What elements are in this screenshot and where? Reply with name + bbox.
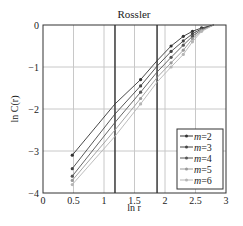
data-point	[71, 167, 74, 170]
data-point	[71, 179, 74, 182]
legend-label: m=5	[194, 164, 212, 175]
legend: m=2m=3m=4m=5m=6	[177, 129, 223, 189]
legend-label: m=6	[194, 175, 212, 186]
data-point	[170, 65, 173, 68]
y-tick-label: −2	[28, 104, 39, 115]
data-point	[71, 183, 74, 186]
data-point	[139, 91, 142, 94]
data-point	[200, 30, 203, 33]
data-point	[139, 97, 142, 100]
legend-swatch-marker	[185, 168, 188, 171]
legend-swatch-marker	[185, 179, 188, 182]
x-axis-label-text: ln r	[127, 202, 141, 213]
x-tick-label: 0.5	[67, 195, 80, 206]
correlation-dimension-chart: Rossler 00.511.522.53 0−1−2−3−4 ln r ln …	[0, 0, 243, 226]
legend-label: m=2	[194, 131, 212, 142]
x-tick-label: 0	[41, 195, 46, 206]
x-tick-label: 2.5	[189, 195, 202, 206]
legend-swatch-marker	[185, 135, 188, 138]
y-tick-label: −3	[28, 146, 39, 157]
legend-label: m=3	[194, 142, 212, 153]
y-axis-label-text: ln C(r)	[9, 96, 21, 123]
data-point	[170, 56, 173, 59]
chart-title: Rossler	[118, 8, 151, 20]
data-point	[182, 49, 185, 52]
data-point	[170, 44, 173, 47]
x-axis-label: ln r	[127, 202, 141, 213]
x-tick-label: 2	[163, 195, 168, 206]
data-point	[182, 35, 185, 38]
y-tick-label: −4	[28, 188, 39, 199]
data-point	[139, 102, 142, 105]
data-point	[139, 84, 142, 87]
legend-swatch-marker	[185, 146, 188, 149]
data-point	[71, 154, 74, 157]
legend-swatch-marker	[185, 157, 188, 160]
y-tick-label: 0	[34, 20, 39, 31]
data-point	[139, 78, 142, 81]
data-point	[170, 50, 173, 53]
legend-label: m=4	[194, 153, 212, 164]
data-point	[182, 39, 185, 42]
y-tick-label: −1	[28, 62, 39, 73]
y-axis-label: ln C(r)	[9, 96, 21, 123]
data-point	[182, 44, 185, 47]
x-tick-label: 3	[224, 195, 229, 206]
data-point	[182, 53, 185, 56]
x-tick-label: 1	[102, 195, 107, 206]
data-point	[191, 40, 194, 43]
data-point	[170, 61, 173, 64]
data-point	[71, 175, 74, 178]
